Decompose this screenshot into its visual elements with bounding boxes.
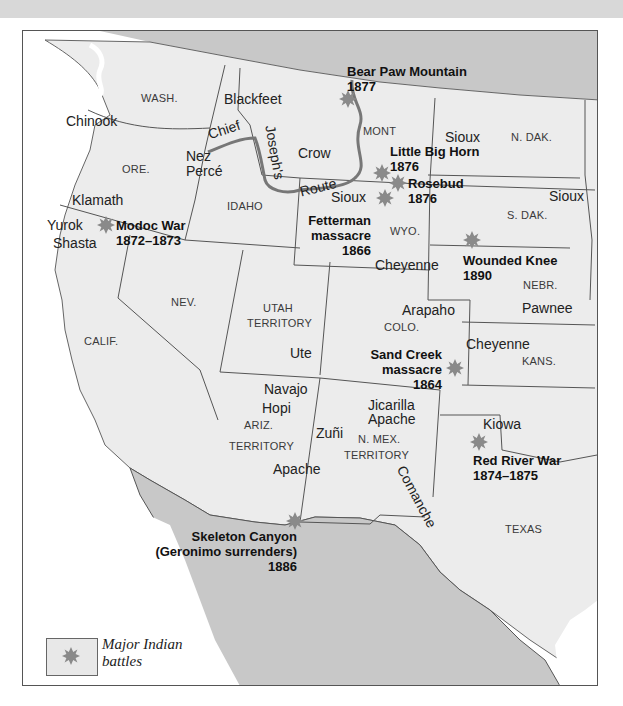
tribe-label-klamath: Klamath — [72, 192, 123, 208]
tribe-label-perce: Percé — [186, 163, 223, 179]
state-label-ariz-territory: TERRITORY — [229, 440, 294, 452]
state-label-utah-territory: TERRITORY — [247, 317, 312, 329]
state-label-idaho: IDAHO — [227, 200, 263, 212]
tribe-label-nez: Nez — [186, 148, 211, 164]
tribe-label-blackfeet: Blackfeet — [224, 91, 282, 107]
battle-marker-wounded-knee — [463, 231, 481, 249]
state-label-calif: CALIF. — [84, 335, 118, 347]
battle-label-sand-creek: Sand Creek massacre 1864 — [352, 347, 442, 392]
battle-marker-modoc — [97, 216, 115, 234]
battle-marker-red-river — [470, 433, 488, 451]
battle-label-modoc: Modoc War 1872–1873 — [116, 218, 186, 248]
battle-label-fetterman: Fetterman massacre 1866 — [298, 213, 371, 258]
tribe-label-crow: Crow — [298, 145, 331, 161]
legend-label: Major Indian battles — [102, 636, 182, 670]
tribe-label-hopi: Hopi — [262, 400, 291, 416]
state-label-wash: WASH. — [141, 92, 178, 104]
battle-label-red-river: Red River War 1874–1875 — [473, 453, 561, 483]
tribe-label-arapaho: Arapaho — [402, 302, 455, 318]
state-label-utah: UTAH — [263, 302, 293, 314]
tribe-label-zuni: Zuñi — [316, 425, 343, 441]
tribe-label-chinook: Chinook — [66, 113, 117, 129]
battle-marker-rosebud — [389, 174, 407, 192]
tribe-label-yurok: Yurok — [47, 217, 83, 233]
tribe-label-sioux-wyo: Sioux — [331, 189, 366, 205]
state-label-mont: MONT — [363, 125, 396, 137]
tribe-label-sioux-east: Sioux — [549, 188, 584, 204]
state-label-ariz: ARIZ. — [244, 419, 273, 431]
battle-label-rosebud: Rosebud 1876 — [408, 176, 464, 206]
legend-swatch — [46, 638, 98, 676]
battle-label-bear-paw: Bear Paw Mountain 1877 — [347, 64, 467, 94]
battle-label-skeleton-canyon: Skeleton Canyon (Geronimo surrenders) 18… — [121, 529, 297, 574]
battle-marker-fetterman — [376, 189, 394, 207]
battle-marker-little-big-horn — [373, 164, 391, 182]
state-label-nev: NEV. — [171, 296, 196, 308]
tribe-label-kiowa: Kiowa — [483, 416, 521, 432]
tribe-label-pawnee: Pawnee — [522, 300, 573, 316]
state-label-nmex: N. MEX. — [358, 433, 400, 445]
tribe-label-ute: Ute — [290, 345, 312, 361]
battle-label-wounded-knee: Wounded Knee 1890 — [463, 253, 557, 283]
tribe-label-cheyenne-kans: Cheyenne — [466, 336, 530, 352]
tribe-label-navajo: Navajo — [264, 381, 308, 397]
state-label-colo: COLO. — [384, 321, 419, 333]
tribe-label-sioux-ndak: Sioux — [445, 129, 480, 145]
tribe-label-apache: Apache — [273, 461, 320, 477]
battle-label-little-big-horn: Little Big Horn 1876 — [390, 144, 480, 174]
tribe-label-jicarilla-apache: Apache — [368, 411, 415, 427]
state-label-sdak: S. DAK. — [507, 209, 548, 221]
state-label-kans: KANS. — [522, 355, 556, 367]
state-label-texas: TEXAS — [505, 523, 542, 535]
state-label-nmex-territory: TERRITORY — [344, 449, 409, 461]
battle-marker-skeleton-canyon — [286, 512, 304, 530]
state-label-wyo: WYO. — [390, 225, 420, 237]
state-label-ndak: N. DAK. — [511, 131, 552, 143]
state-label-ore: ORE. — [122, 163, 150, 175]
battle-marker-sand-creek — [446, 359, 464, 377]
tribe-label-shasta: Shasta — [53, 235, 97, 251]
tribe-label-cheyenne-wyo: Cheyenne — [375, 257, 439, 273]
